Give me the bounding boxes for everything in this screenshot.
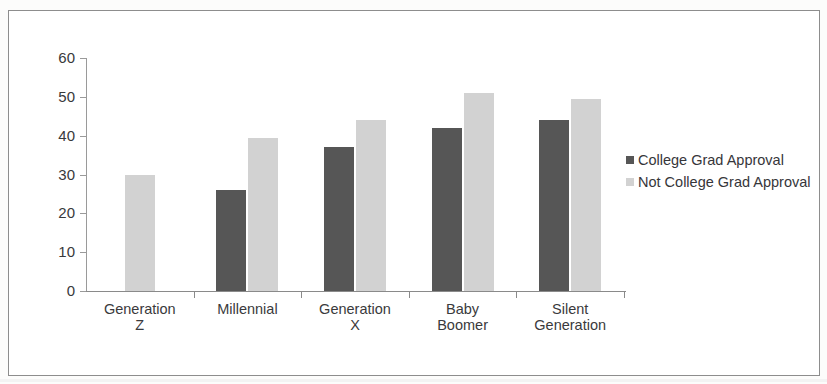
bar-0 — [539, 120, 569, 291]
y-axis-tick-labels: 6050403020100 — [27, 11, 75, 311]
legend-item-label: Not College Grad Approval — [638, 175, 811, 190]
legend-item[interactable]: College Grad Approval — [626, 149, 816, 171]
y-axis-tick-label: 60 — [35, 50, 75, 65]
x-axis-tick-mark — [301, 292, 302, 298]
y-axis-tick-label: 0 — [35, 283, 75, 298]
y-axis-tick-label: 20 — [35, 205, 75, 220]
bar-0 — [216, 190, 246, 291]
bar-1 — [464, 93, 494, 291]
y-axis-tick-label: 10 — [35, 244, 75, 259]
scan-artifact — [0, 379, 827, 382]
plot-area — [86, 58, 624, 291]
x-axis-category-label: SilentGeneration — [506, 301, 634, 333]
x-axis-category-label-line: Silent — [506, 301, 634, 317]
y-axis-tick-label: 50 — [35, 89, 75, 104]
x-axis-line — [86, 291, 626, 292]
bar-1 — [248, 138, 278, 291]
bar-1 — [125, 175, 155, 292]
bar-1 — [356, 120, 386, 291]
bar-0 — [432, 128, 462, 291]
x-axis-category-label-line: Generation — [506, 317, 634, 333]
chart-legend: College Grad ApprovalNot College Grad Ap… — [626, 149, 816, 193]
y-axis-tick-mark — [80, 291, 86, 292]
chart-figure-frame: 6050403020100 GenerationZMillennialGener… — [8, 10, 820, 376]
x-axis-tick-mark — [624, 292, 625, 298]
y-axis-tick-label: 40 — [35, 128, 75, 143]
x-axis-tick-mark — [409, 292, 410, 298]
x-axis-tick-mark — [194, 292, 195, 298]
bar-1 — [571, 99, 601, 291]
x-axis-tick-mark — [516, 292, 517, 298]
legend-item-label: College Grad Approval — [638, 153, 784, 168]
legend-item[interactable]: Not College Grad Approval — [626, 171, 816, 193]
y-axis-tick-label: 30 — [35, 167, 75, 182]
x-axis-category-label-line: Z — [76, 317, 204, 333]
legend-swatch-light — [626, 178, 634, 186]
bar-0 — [324, 147, 354, 291]
legend-swatch-dark — [626, 156, 634, 164]
